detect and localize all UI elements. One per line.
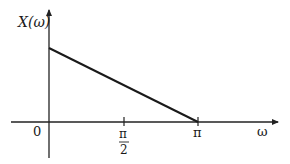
x-axis-label: ω xyxy=(257,124,268,139)
pi-label: π xyxy=(193,125,202,140)
half-pi-denominator: 2 xyxy=(120,143,128,157)
spectrum-diagram: X(ω) ω 0 π 2 π xyxy=(0,0,290,164)
origin-label: 0 xyxy=(33,124,41,139)
spectrum-line xyxy=(49,48,198,122)
y-axis-label: X(ω) xyxy=(17,14,50,30)
half-pi-numerator: π xyxy=(119,127,127,141)
